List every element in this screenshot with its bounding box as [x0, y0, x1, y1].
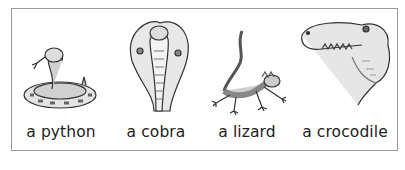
- card-python: a python: [12, 9, 110, 150]
- lizard-icon: [202, 11, 292, 119]
- card-crocodile: a crocodile: [292, 9, 398, 150]
- caption-crocodile: a crocodile: [292, 123, 398, 141]
- caption-lizard: a lizard: [202, 123, 292, 141]
- crocodile-icon: [292, 11, 398, 119]
- caption-cobra: a cobra: [110, 123, 202, 141]
- card-cobra: a cobra: [110, 9, 202, 150]
- card-lizard: a lizard: [202, 9, 292, 150]
- python-snake-icon: [12, 11, 110, 119]
- animal-vocabulary-panel: a python a cobra: [11, 8, 398, 151]
- caption-python: a python: [12, 123, 110, 141]
- cobra-icon: [110, 11, 202, 119]
